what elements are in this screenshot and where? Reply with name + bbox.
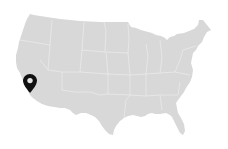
map-pin-icon[interactable]: [23, 74, 37, 94]
